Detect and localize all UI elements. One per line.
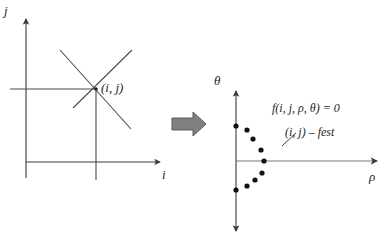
scatter-dot-group xyxy=(233,123,266,192)
right-axis-label-theta: θ xyxy=(214,74,220,87)
scatter-dot xyxy=(261,158,266,163)
curve-equation-label: f(i, j, ρ, θ) = 0 xyxy=(272,102,340,114)
scatter-dot xyxy=(233,187,238,192)
left-axis-label-i: i xyxy=(162,168,166,181)
scatter-dot xyxy=(233,123,238,128)
figure-canvas: j i (i, j) θ ρ f(i, j, ρ, θ) = 0 (i, j) … xyxy=(0,0,387,238)
scatter-dot xyxy=(244,183,249,188)
scatter-dot xyxy=(258,147,263,152)
right-axis-label-rho: ρ xyxy=(369,170,375,183)
left-crossing-point xyxy=(94,87,98,91)
point-family-label: (i, j) – fest xyxy=(285,126,334,138)
image-space-plot xyxy=(10,19,160,180)
scatter-dot xyxy=(244,127,249,132)
left-axis-label-j: j xyxy=(4,4,8,17)
figure-vector-layer xyxy=(0,0,387,238)
scatter-dot xyxy=(252,177,257,182)
left-line-diagonal-swne xyxy=(73,50,132,108)
transform-arrow xyxy=(172,112,206,136)
scatter-dot xyxy=(259,170,264,175)
scatter-dot xyxy=(250,136,255,141)
left-point-label: (i, j) xyxy=(101,81,123,94)
